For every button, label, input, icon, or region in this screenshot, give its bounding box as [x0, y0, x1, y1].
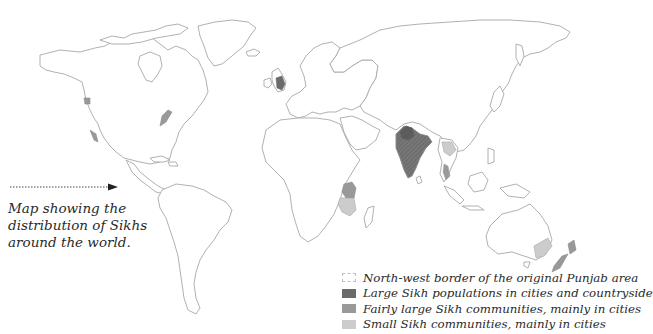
tasmania — [524, 262, 530, 268]
caption-line-3: around the world. — [8, 234, 178, 251]
map-caption: Map showing the distribution of Sikhs ar… — [8, 200, 178, 251]
madagascar — [364, 206, 374, 228]
sumatra — [444, 186, 464, 204]
caption-line-1: Map showing the — [8, 200, 178, 217]
canadian-arctic-islands — [100, 24, 188, 44]
central-america — [126, 160, 166, 194]
british-columbia-region — [84, 98, 90, 104]
kenya-uganda-region — [342, 182, 356, 198]
legend-item-punjab-border: North-west border of the original Punjab… — [342, 270, 653, 286]
caribbean-island — [168, 162, 178, 166]
swatch-medium-icon — [342, 304, 356, 313]
greenland — [198, 20, 256, 66]
map-legend: North-west border of the original Punjab… — [342, 270, 653, 332]
philippines — [488, 148, 494, 164]
swatch-dashed-border-icon — [342, 273, 356, 282]
new-guinea — [500, 184, 530, 198]
legend-label: Large Sikh populations in cities and cou… — [363, 286, 653, 300]
north-america — [40, 36, 208, 164]
legend-label: Small Sikh communities, mainly in cities — [363, 317, 606, 331]
caption-line-2: distribution of Sikhs — [8, 217, 178, 234]
legend-item-large: Large Sikh populations in cities and cou… — [342, 286, 653, 302]
tanzania-region — [338, 198, 356, 216]
swatch-light-icon — [342, 320, 356, 329]
dotted-arrow-icon — [10, 183, 118, 191]
sri-lanka — [416, 176, 422, 184]
java — [462, 206, 484, 210]
legend-label: Fairly large Sikh communities, mainly in… — [363, 302, 641, 316]
iceland — [246, 49, 260, 56]
ireland — [264, 78, 272, 88]
swatch-dark-icon — [342, 289, 356, 298]
legend-item-fairly-large: Fairly large Sikh communities, mainly in… — [342, 301, 653, 317]
africa — [262, 118, 360, 242]
california-region — [90, 130, 98, 142]
borneo — [468, 172, 488, 192]
legend-item-small: Small Sikh communities, mainly in cities — [342, 317, 653, 333]
legend-label: North-west border of the original Punjab… — [363, 271, 638, 285]
new-zealand-north — [568, 240, 576, 254]
